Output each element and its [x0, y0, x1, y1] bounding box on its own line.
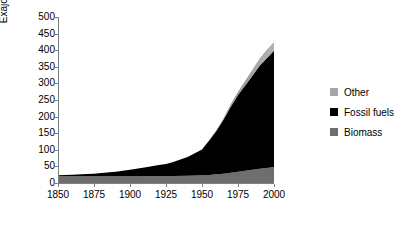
x-tick-label: 1900: [110, 189, 150, 200]
legend-item[interactable]: Biomass: [330, 122, 414, 142]
x-tick-label: 2000: [254, 189, 294, 200]
legend-item[interactable]: Other: [330, 82, 414, 102]
x-tick-label: 1875: [74, 189, 114, 200]
legend-label: Fossil fuels: [344, 107, 394, 118]
chart-legend: OtherFossil fuelsBiomass: [330, 82, 414, 142]
legend-swatch-icon: [330, 108, 338, 116]
x-tick-label: 1850: [38, 189, 78, 200]
energy-consumption-chart: Exajoules/Year 0501001502002503003504004…: [0, 0, 414, 225]
legend-item[interactable]: Fossil fuels: [330, 102, 414, 122]
legend-label: Biomass: [344, 127, 382, 138]
x-tick-label: 1975: [218, 189, 258, 200]
x-tick-label: 1925: [146, 189, 186, 200]
legend-swatch-icon: [330, 128, 338, 136]
legend-label: Other: [344, 87, 369, 98]
x-tick-label: 1950: [182, 189, 222, 200]
legend-swatch-icon: [330, 88, 338, 96]
